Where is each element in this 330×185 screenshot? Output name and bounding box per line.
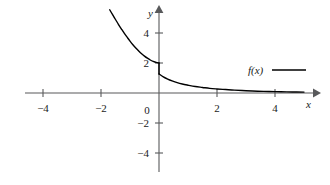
x-tick-label: −4 — [37, 103, 49, 114]
x-tick-label: 0 — [144, 105, 150, 116]
series-group — [110, 10, 304, 92]
plot-canvas — [0, 0, 330, 185]
legend-entry-label: f(x) — [248, 65, 263, 76]
curve-right-branch — [159, 74, 304, 92]
y-axis-label: y — [148, 8, 153, 19]
y-axis-arrowhead — [155, 5, 164, 13]
y-tick-label: −2 — [125, 118, 149, 129]
x-axis-arrowhead — [313, 89, 321, 98]
y-tick-label: 4 — [125, 28, 149, 39]
x-tick-label: 2 — [214, 103, 220, 114]
y-tick-label: −4 — [125, 148, 149, 159]
x-tick-label: −2 — [95, 103, 107, 114]
x-tick-label: 4 — [272, 103, 278, 114]
x-axis-label: x — [306, 99, 311, 110]
y-tick-label: 2 — [125, 58, 149, 69]
axes-group — [25, 5, 321, 172]
function-graph-figure: −4−202442−2−4 x y f(x) — [0, 0, 330, 185]
